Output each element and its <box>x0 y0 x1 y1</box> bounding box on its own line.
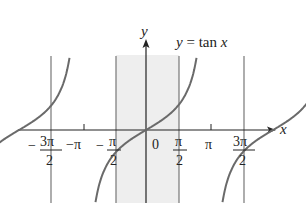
tick-label-pi: π <box>205 137 212 152</box>
svg-text:3π: 3π <box>40 134 54 149</box>
y-axis-label: y <box>139 23 148 39</box>
x-axis-label: x <box>279 121 287 137</box>
svg-text:−: − <box>96 138 104 153</box>
tick-label-neg-pi: −π <box>66 137 81 152</box>
svg-text:2: 2 <box>46 153 53 168</box>
tan-graph: y y = tan x x − 3π 2 −π − π 2 0 π 2 π 3π… <box>0 0 306 213</box>
tick-label-neg-3pi-2: − 3π 2 <box>28 134 62 168</box>
svg-text:−: − <box>28 138 36 153</box>
svg-text:π: π <box>109 134 116 149</box>
equation-label: y = tan x <box>174 34 228 50</box>
tick-label-zero: 0 <box>152 137 159 152</box>
svg-text:2: 2 <box>239 153 246 168</box>
svg-text:2: 2 <box>176 153 183 168</box>
svg-text:π: π <box>175 134 182 149</box>
svg-text:2: 2 <box>110 153 117 168</box>
svg-text:3π: 3π <box>233 134 247 149</box>
